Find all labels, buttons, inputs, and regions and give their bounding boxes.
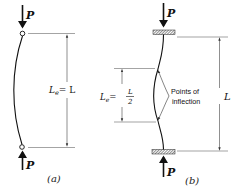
leader-line-lower [159, 96, 170, 119]
inflection-annotation-line2: inflection [172, 97, 200, 106]
pin-bottom-a [20, 145, 25, 150]
load-label-top-a: P [25, 9, 35, 22]
column-a [14, 36, 23, 145]
figure-a: P P Le= L (a) [14, 5, 75, 184]
figure-b: P P L Le= L 2 Points of i [99, 3, 231, 186]
effective-length-label-a: Le= L [48, 85, 75, 97]
fixed-support-top-b [153, 30, 175, 35]
load-label-bottom-a: P [25, 159, 35, 172]
load-label-top-b: P [166, 7, 176, 20]
caption-a: (a) [47, 173, 61, 184]
inflection-annotation-line1: Points of [171, 87, 199, 96]
total-length-label-b: L [223, 91, 231, 102]
pin-top-a [20, 31, 25, 36]
caption-b: (b) [185, 175, 199, 186]
fraction-numerator: L [127, 88, 133, 96]
buckling-diagram: P P Le= L (a) P P [0, 0, 238, 190]
column-b [154, 35, 164, 150]
effective-length-label-b: Le= [99, 92, 116, 103]
fixed-support-bottom-b [152, 150, 175, 155]
load-label-bottom-b: P [166, 166, 176, 179]
fraction-denominator: 2 [127, 98, 133, 106]
leader-line-upper [159, 72, 170, 97]
